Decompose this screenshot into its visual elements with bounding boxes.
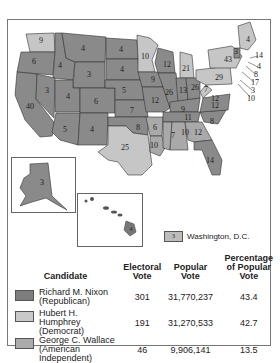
svg-text:12: 12: [163, 60, 171, 69]
percentage: 42.7: [218, 309, 280, 336]
hawaii-votes: 4: [130, 226, 133, 232]
svg-text:4: 4: [119, 45, 123, 54]
humphrey-swatch: [15, 311, 34, 322]
candidate-party: (Republican): [39, 297, 108, 306]
percentage: 13.5: [218, 336, 280, 363]
svg-text:26: 26: [191, 83, 199, 92]
wallace-swatch: [15, 338, 34, 349]
electoral-vote: 46: [121, 336, 163, 363]
svg-text:9: 9: [39, 36, 43, 45]
svg-text:4: 4: [58, 61, 62, 70]
svg-text:4: 4: [246, 35, 250, 44]
candidate-name: Hubert H. Humphrey: [39, 309, 121, 327]
svg-text:7: 7: [171, 131, 175, 140]
svg-text:6: 6: [32, 57, 36, 66]
hawaii-inset: 4: [77, 193, 143, 247]
svg-text:4: 4: [66, 92, 70, 101]
alaska-inset: 3: [11, 157, 76, 213]
svg-text:11: 11: [184, 113, 192, 122]
popular-vote: 31,270,533: [163, 309, 217, 336]
svg-text:8: 8: [210, 117, 214, 126]
header-candidate: Candidate: [10, 254, 121, 284]
svg-text:9: 9: [151, 75, 155, 84]
electoral-vote: 301: [121, 284, 163, 309]
svg-text:6: 6: [153, 123, 157, 132]
svg-text:40: 40: [26, 102, 34, 111]
svg-text:25: 25: [121, 143, 129, 152]
svg-text:43: 43: [224, 55, 232, 64]
svg-text:6: 6: [94, 97, 98, 106]
svg-text:4: 4: [81, 44, 85, 53]
svg-text:26: 26: [165, 88, 173, 97]
svg-text:10: 10: [181, 128, 189, 137]
nixon-swatch: [15, 290, 34, 301]
table-row: George C. Wallace(American Independent) …: [10, 336, 280, 363]
header-percentage: Percentage of Popular Vote: [218, 254, 280, 284]
popular-vote: 9,906,141: [163, 336, 217, 363]
svg-text:8: 8: [136, 123, 140, 132]
svg-text:4: 4: [120, 65, 124, 74]
header-popular: Popular Vote: [163, 254, 217, 284]
svg-text:14: 14: [206, 156, 214, 165]
dc-swatch: 3: [164, 231, 183, 242]
svg-text:13: 13: [179, 86, 187, 95]
svg-text:14: 14: [255, 51, 263, 60]
svg-text:7: 7: [130, 106, 134, 115]
alaska-votes: 3: [40, 178, 44, 187]
svg-text:3: 3: [234, 47, 238, 56]
svg-text:12: 12: [151, 96, 159, 105]
svg-text:10: 10: [141, 52, 149, 61]
table-row: Hubert H. Humphrey(Democrat) 191 31,270,…: [10, 309, 280, 336]
dc-label: Washington, D.C.: [187, 232, 249, 241]
svg-text:4: 4: [90, 125, 94, 134]
electoral-vote: 191: [121, 309, 163, 336]
header-electoral: Electoral Vote: [121, 254, 163, 284]
svg-text:12: 12: [211, 94, 219, 103]
dc-legend: 3 Washington, D.C.: [164, 231, 249, 242]
percentage: 43.4: [218, 284, 280, 309]
svg-text:10: 10: [247, 94, 255, 103]
svg-text:12: 12: [194, 128, 202, 137]
svg-text:3: 3: [45, 86, 49, 95]
candidate-party: (American Independent): [39, 345, 121, 363]
svg-text:5: 5: [63, 125, 67, 134]
svg-text:5: 5: [122, 86, 126, 95]
svg-text:10: 10: [150, 141, 158, 150]
svg-text:7: 7: [204, 85, 208, 94]
svg-text:29: 29: [215, 73, 223, 82]
svg-text:21: 21: [182, 64, 190, 73]
svg-text:3: 3: [87, 70, 91, 79]
popular-vote: 31,770,237: [163, 284, 217, 309]
results-table: Candidate Electoral Vote Popular Vote Pe…: [10, 254, 280, 363]
table-row: Richard M. Nixon(Republican) 301 31,770,…: [10, 284, 280, 309]
